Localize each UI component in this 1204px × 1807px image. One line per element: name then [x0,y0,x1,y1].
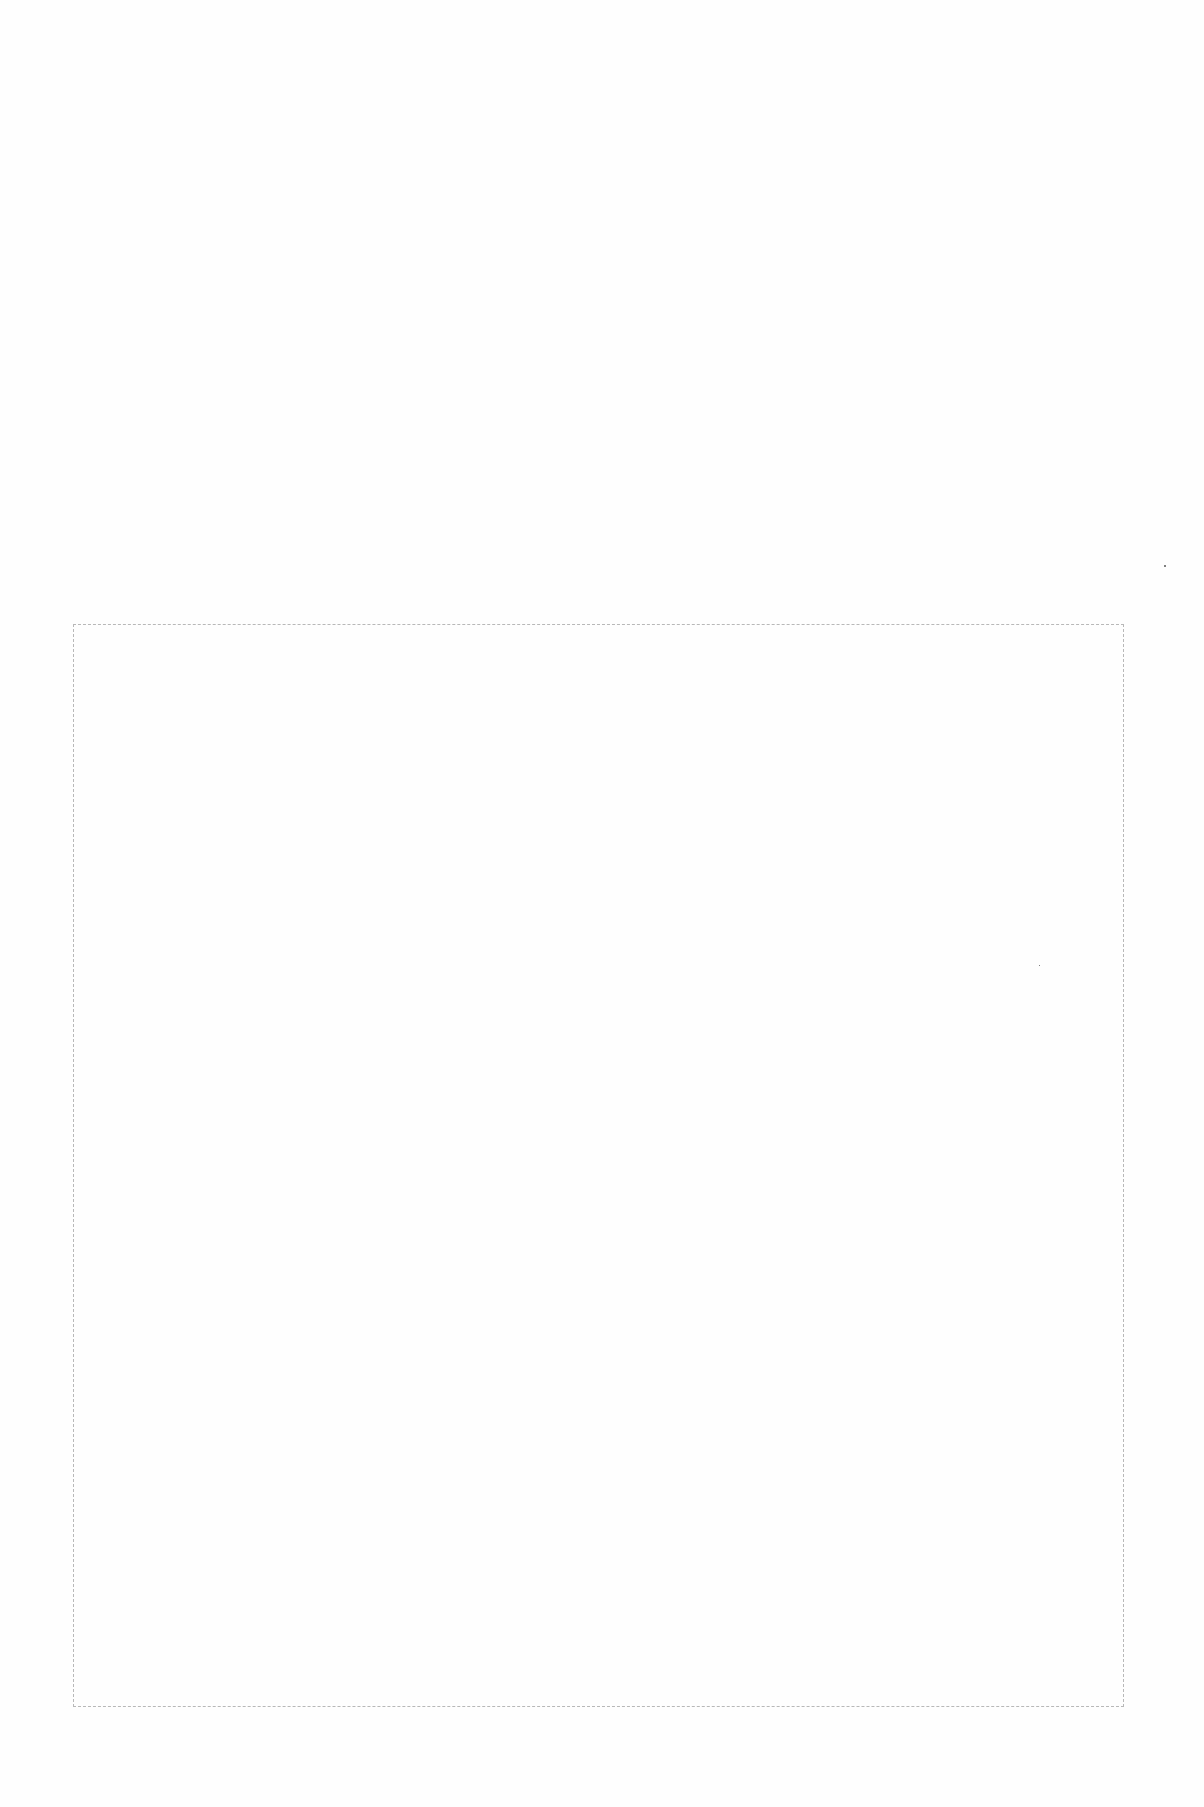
scan-speck [1039,965,1040,966]
blank-page [0,0,1204,1807]
scan-speck [1164,565,1166,567]
dashed-frame [73,624,1124,1707]
